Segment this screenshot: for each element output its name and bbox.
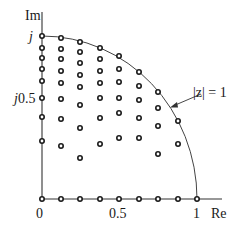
sample-point: [78, 85, 82, 89]
sample-point: [98, 96, 102, 100]
sample-point: [40, 115, 44, 119]
sample-point: [156, 106, 160, 110]
sample-point: [59, 47, 63, 51]
complex-plane-diagram: Im j j0.5 0 0.5 1 Re |z| = 1: [0, 0, 243, 226]
sample-point: [98, 46, 102, 50]
im-axis-label: Im: [25, 8, 41, 23]
unit-circle-arc: [42, 36, 197, 199]
j-half-label: j0.5: [12, 91, 35, 106]
sample-point: [156, 152, 160, 156]
sample-point: [40, 56, 44, 60]
sample-point: [98, 116, 102, 120]
sample-point: [59, 144, 63, 148]
sample-point: [137, 136, 141, 140]
sample-point: [78, 197, 82, 201]
sample-point: [117, 136, 121, 140]
j-half-value: 0.5: [18, 91, 36, 106]
sample-point: [117, 197, 121, 201]
sample-point: [40, 139, 44, 143]
sample-point: [195, 197, 199, 201]
sample-point: [176, 197, 180, 201]
sample-point: [98, 81, 102, 85]
sample-point: [98, 69, 102, 73]
sample-point: [98, 197, 102, 201]
x-tick-1: 1: [193, 206, 200, 221]
sample-point: [40, 67, 44, 71]
sample-point: [40, 46, 44, 50]
sample-point: [156, 90, 160, 94]
sample-point: [40, 34, 44, 38]
x-tick-0: 0: [36, 206, 43, 221]
sample-point: [59, 57, 63, 61]
sample-point: [40, 96, 44, 100]
sample-point: [59, 69, 63, 73]
j-label: j: [27, 29, 33, 44]
sample-point: [156, 197, 160, 201]
sample-point: [78, 126, 82, 130]
sample-point: [59, 36, 63, 40]
sample-point: [78, 156, 82, 160]
sample-point: [59, 117, 63, 121]
sample-point: [98, 57, 102, 61]
sample-point: [78, 61, 82, 65]
unit-circle-label: |z| = 1: [193, 85, 227, 100]
sample-point: [176, 142, 180, 146]
sample-point: [137, 98, 141, 102]
re-axis-label: Re: [211, 206, 227, 221]
sample-point: [78, 73, 82, 77]
sample-point: [117, 54, 121, 58]
sample-point: [137, 70, 141, 74]
sample-point: [78, 40, 82, 44]
sample-point: [176, 119, 180, 123]
sample-point: [40, 197, 44, 201]
sample-point: [156, 124, 160, 128]
x-tick-half: 0.5: [109, 206, 127, 221]
sample-point: [137, 197, 141, 201]
sample-point: [137, 84, 141, 88]
sample-point: [117, 67, 121, 71]
sample-point: [117, 96, 121, 100]
sample-point: [78, 50, 82, 54]
sample-point: [98, 142, 102, 146]
sample-point: [59, 81, 63, 85]
arrow-head-icon: [170, 102, 178, 108]
sample-point: [117, 111, 121, 115]
sample-point: [40, 79, 44, 83]
sample-point: [117, 80, 121, 84]
sample-point: [59, 197, 63, 201]
sample-point: [78, 103, 82, 107]
sample-point: [59, 97, 63, 101]
sample-points: [40, 34, 199, 201]
sample-point: [137, 116, 141, 120]
